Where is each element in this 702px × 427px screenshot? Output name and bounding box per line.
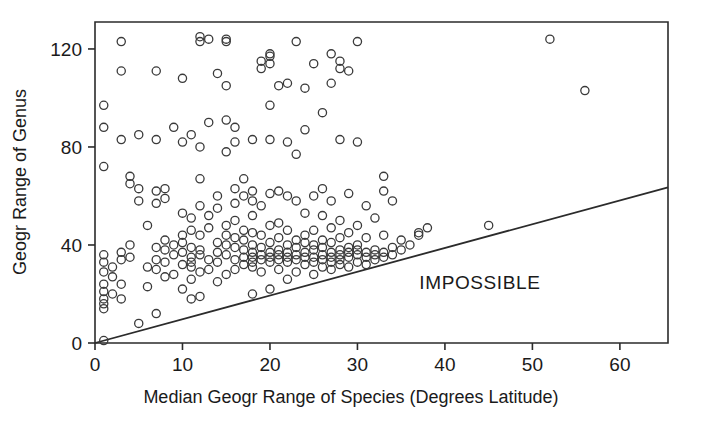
data-point (353, 138, 361, 146)
data-point (353, 221, 361, 229)
data-point (231, 138, 239, 146)
data-point (310, 192, 318, 200)
data-point (187, 253, 195, 261)
data-point (283, 138, 291, 146)
data-point (336, 136, 344, 144)
data-point (266, 189, 274, 197)
data-point (143, 283, 151, 291)
data-point (205, 118, 213, 126)
data-point (275, 265, 283, 273)
data-point (187, 295, 195, 303)
data-point (327, 238, 335, 246)
data-point (187, 131, 195, 139)
data-point (345, 263, 353, 271)
data-point (240, 192, 248, 200)
data-point (213, 238, 221, 246)
data-point (248, 197, 256, 205)
data-point (100, 268, 108, 276)
data-point (152, 67, 160, 75)
data-point (318, 185, 326, 193)
plot-border (95, 22, 668, 343)
data-point (196, 268, 204, 276)
data-point (345, 67, 353, 75)
data-point (292, 38, 300, 46)
data-point (485, 221, 493, 229)
data-point (196, 292, 204, 300)
data-point (205, 35, 213, 43)
data-point (213, 248, 221, 256)
data-point (126, 253, 134, 261)
data-point (152, 256, 160, 264)
data-point (240, 236, 248, 244)
data-point (327, 224, 335, 232)
data-point (240, 226, 248, 234)
data-point (196, 246, 204, 254)
data-point (161, 246, 169, 254)
data-point (205, 224, 213, 232)
data-point (100, 123, 108, 131)
data-point (196, 33, 204, 41)
data-point (310, 241, 318, 249)
data-point (301, 84, 309, 92)
data-point (301, 126, 309, 134)
data-point (292, 197, 300, 205)
data-point (205, 211, 213, 219)
data-point (152, 187, 160, 195)
data-point (406, 241, 414, 249)
x-tick-label: 0 (90, 354, 101, 375)
identity-boundary-line (95, 187, 668, 343)
impossible-region-label: IMPOSSIBLE (419, 272, 540, 293)
data-point (187, 243, 195, 251)
data-point (231, 123, 239, 131)
data-point (222, 241, 230, 249)
data-point (318, 211, 326, 219)
data-point (178, 248, 186, 256)
data-point (205, 256, 213, 264)
y-tick-label: 120 (50, 39, 82, 60)
data-point (231, 265, 239, 273)
data-point (108, 290, 116, 298)
data-point (327, 50, 335, 58)
data-point (213, 69, 221, 77)
data-point (283, 192, 291, 200)
data-point (152, 199, 160, 207)
data-point (135, 319, 143, 327)
data-point (397, 246, 405, 254)
data-point (388, 197, 396, 205)
x-tick-label: 30 (347, 354, 368, 375)
data-point (152, 243, 160, 251)
data-point (546, 35, 554, 43)
x-tick-label: 10 (172, 354, 193, 375)
data-point (248, 211, 256, 219)
data-point (222, 116, 230, 124)
data-point (266, 285, 274, 293)
data-point (266, 238, 274, 246)
data-point (292, 268, 300, 276)
data-point (380, 187, 388, 195)
data-point (117, 67, 125, 75)
data-point (117, 280, 125, 288)
data-point (222, 231, 230, 239)
data-point (283, 226, 291, 234)
data-point (161, 185, 169, 193)
chart-canvas: 010203040506004080120 IMPOSSIBLE Median … (0, 0, 702, 427)
data-point (178, 260, 186, 268)
data-point (345, 229, 353, 237)
data-point (581, 87, 589, 95)
data-point (301, 209, 309, 217)
data-point (231, 216, 239, 224)
data-point (310, 270, 318, 278)
data-point (187, 226, 195, 234)
data-point (187, 214, 195, 222)
axis-tick-labels: 010203040506004080120 (50, 39, 630, 375)
data-point (266, 221, 274, 229)
data-point (196, 202, 204, 210)
data-point (213, 278, 221, 286)
data-point (178, 74, 186, 82)
x-tick-label: 60 (609, 354, 630, 375)
identity-boundary-line (95, 187, 668, 343)
data-point (178, 138, 186, 146)
data-point (397, 236, 405, 244)
data-point (275, 82, 283, 90)
y-tick-label: 0 (71, 333, 82, 354)
